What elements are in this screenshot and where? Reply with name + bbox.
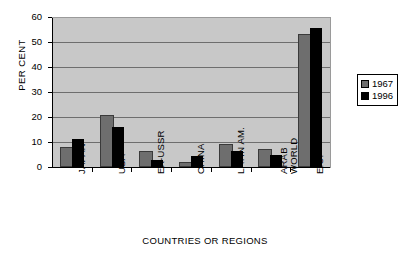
category-label-line1: E.U. — [314, 155, 325, 174]
x-axis-tick-mark — [131, 168, 132, 172]
gridline — [53, 67, 331, 68]
x-axis-category-label: CHINA — [196, 143, 206, 174]
gridline — [53, 17, 331, 18]
gridline — [53, 42, 331, 43]
x-axis-category-label: JAPAN — [77, 143, 87, 174]
gridline — [53, 92, 331, 93]
x-axis-category-label: ARABWORLD — [279, 138, 299, 174]
category-label-line1: CHINA — [195, 143, 206, 174]
bar-chart: PER CENT 0102030405060 JAPANUSAEX-USSRCH… — [0, 0, 410, 258]
y-axis-tick-label: 30 — [16, 87, 42, 97]
y-axis-tick-label: 0 — [16, 162, 42, 172]
x-axis-category-label: LATIN AM. — [236, 127, 246, 174]
legend-item-1967: 1967 — [361, 78, 393, 90]
category-label-line1: USA — [116, 154, 127, 174]
x-axis-tick-mark — [171, 168, 172, 172]
legend: 1967 1996 — [357, 74, 398, 106]
x-axis-tick-mark — [251, 168, 252, 172]
legend-swatch-1996 — [361, 92, 369, 100]
category-label-line2: WORLD — [289, 138, 299, 174]
y-axis-tick-label: 50 — [16, 37, 42, 47]
x-axis-tick-mark — [92, 168, 93, 172]
y-axis-tick-label: 60 — [16, 12, 42, 22]
category-label-line1: EX-USSR — [155, 130, 166, 174]
x-axis-category-label: E.U. — [315, 155, 325, 174]
gridline — [53, 117, 331, 118]
x-axis-category-label: EX-USSR — [156, 130, 166, 174]
x-axis-category-label: USA — [117, 154, 127, 174]
legend-label-1967: 1967 — [372, 79, 393, 89]
y-axis-tick-label: 20 — [16, 112, 42, 122]
y-axis-tick-label: 40 — [16, 62, 42, 72]
legend-label-1996: 1996 — [372, 91, 393, 101]
legend-item-1996: 1996 — [361, 90, 393, 102]
bar-1996 — [310, 28, 322, 168]
category-label-line1: LATIN AM. — [235, 127, 246, 174]
category-label-line1: JAPAN — [76, 143, 87, 174]
x-axis-tick-mark — [211, 168, 212, 172]
x-axis-title: COUNTRIES OR REGIONS — [0, 235, 410, 246]
y-axis-tick-label: 10 — [16, 137, 42, 147]
legend-swatch-1967 — [361, 80, 369, 88]
